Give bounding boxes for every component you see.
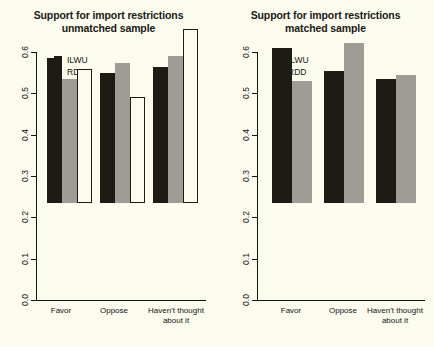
bar-favor-anes [77, 69, 92, 203]
x-label-havent-thought: Haven't thought about it [140, 306, 212, 325]
bar-favor-ilwu [47, 58, 62, 203]
y-tick-label-5: 0.5 [20, 80, 30, 106]
bar-havent-ilwu [153, 67, 168, 203]
bars-unmatched [37, 0, 207, 203]
y-tick-label-2: 0.2 [20, 204, 30, 230]
bar-havent-ilwu [376, 79, 396, 203]
bar-favor-rdd [292, 81, 312, 203]
bars-matched [258, 0, 426, 203]
x-label-oppose: Oppose [81, 306, 147, 316]
chart-page: Support for import restrictions unmatche… [0, 0, 434, 347]
bar-oppose-ilwu [100, 73, 115, 203]
bar-favor-ilwu [272, 48, 292, 203]
bar-favor-rdd [62, 79, 77, 203]
bar-group-havent-thought [153, 0, 201, 203]
y-tick-label-3: 0.3 [241, 163, 251, 189]
y-tick-label-1: 0.1 [20, 246, 30, 272]
x-axis-line [257, 300, 425, 301]
bar-oppose-ilwu [324, 71, 344, 203]
panel-matched-sample: Support for import restrictions matched … [217, 0, 434, 347]
bar-group-havent-thought [376, 0, 416, 203]
bar-oppose-rdd [115, 63, 130, 204]
bar-group-favor [272, 0, 312, 203]
x-label-havent-thought: Haven't thought about it [360, 306, 430, 325]
bar-group-oppose [324, 0, 364, 203]
y-tick-label-4: 0.4 [241, 122, 251, 148]
y-tick-label-1: 0.1 [241, 246, 251, 272]
bar-group-favor [47, 0, 95, 203]
bar-oppose-anes [130, 97, 145, 203]
bar-havent-rdd [168, 56, 183, 203]
bar-group-oppose [100, 0, 148, 203]
bar-havent-rdd [396, 75, 416, 203]
y-tick-label-6: 0.6 [241, 39, 251, 65]
y-tick-label-0: 0.0 [241, 287, 251, 313]
bar-oppose-rdd [344, 43, 364, 203]
plot-area-matched: 0.0 0.1 0.2 0.3 0.4 0.5 0.6 [257, 52, 425, 302]
y-tick-label-5: 0.5 [241, 80, 251, 106]
y-tick-label-2: 0.2 [241, 204, 251, 230]
x-axis-line [36, 300, 206, 301]
y-tick-label-3: 0.3 [20, 163, 30, 189]
y-tick-label-6: 0.6 [20, 39, 30, 65]
plot-area-unmatched: 0.0 0.1 0.2 0.3 0.4 0.5 0.6 [36, 52, 206, 302]
y-tick-label-4: 0.4 [20, 122, 30, 148]
panel-unmatched-sample: Support for import restrictions unmatche… [0, 0, 217, 347]
bar-havent-anes [183, 29, 198, 203]
